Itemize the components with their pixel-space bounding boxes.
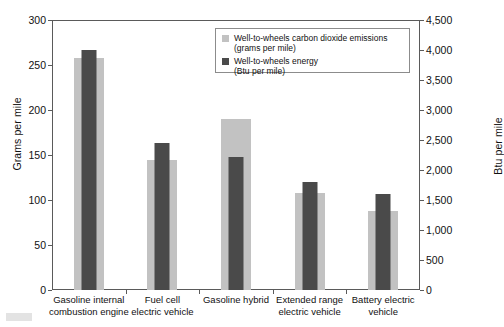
y-tick-mark-right xyxy=(420,230,424,231)
x-axis-labels: Gasoline internalcombustion engineFuel c… xyxy=(52,294,420,326)
y-tick-label-left: 200 xyxy=(2,105,46,116)
legend-label-line2: (Btu per mile) xyxy=(234,66,318,76)
y-tick-mark-left xyxy=(48,245,52,246)
bar-group xyxy=(52,20,126,290)
legend-label-line1: Well-to-wheels carbon dioxide emissions xyxy=(234,33,387,43)
y-tick-mark-left xyxy=(48,155,52,156)
y-tick-mark-left xyxy=(48,110,52,111)
y-tick-mark-left xyxy=(48,65,52,66)
y-tick-label-right: 3,000 xyxy=(426,105,452,116)
y-tick-label-right: 4,500 xyxy=(426,15,452,26)
y-tick-label-right: 2,500 xyxy=(426,135,452,146)
y-axis-right-title: Btu per mile xyxy=(492,91,504,201)
y-tick-mark-right xyxy=(420,140,424,141)
y-tick-label-right: 4,000 xyxy=(426,45,452,56)
y-tick-mark-right xyxy=(420,290,424,291)
y-tick-label-left: 100 xyxy=(2,195,46,206)
chart-legend: Well-to-wheels carbon dioxide emissions(… xyxy=(215,28,410,73)
y-tick-mark-right xyxy=(420,110,424,111)
bar-energy xyxy=(155,143,170,290)
legend-swatch xyxy=(222,35,229,42)
legend-label: Well-to-wheels energy(Btu per mile) xyxy=(234,56,318,76)
y-tick-label-right: 1,000 xyxy=(426,225,452,236)
legend-swatch xyxy=(222,58,229,65)
bar-energy xyxy=(81,50,96,290)
corner-mark xyxy=(6,313,32,321)
y-tick-mark-right xyxy=(420,50,424,51)
x-label-line2: vehicle xyxy=(338,306,428,318)
y-axis-right: 05001,0001,5002,0002,5003,0003,5004,0004… xyxy=(426,0,466,327)
y-axis-left-title: Grams per mile xyxy=(11,79,23,189)
legend-label-line2: (grams per mile) xyxy=(234,43,387,53)
legend-item: Well-to-wheels carbon dioxide emissions(… xyxy=(222,33,404,53)
y-tick-mark-left xyxy=(48,20,52,21)
x-tick-mark xyxy=(346,290,347,294)
bar-energy xyxy=(302,182,317,290)
y-tick-label-left: 0 xyxy=(2,285,46,296)
y-tick-mark-right xyxy=(420,200,424,201)
x-label-line1: Battery electric xyxy=(338,294,428,306)
y-tick-mark-right xyxy=(420,260,424,261)
y-tick-mark-right xyxy=(420,80,424,81)
y-axis-left: 050100150200250300 xyxy=(0,0,46,327)
bar-energy xyxy=(376,194,391,290)
y-tick-label-right: 1,500 xyxy=(426,195,452,206)
y-tick-label-left: 250 xyxy=(2,60,46,71)
bar-energy xyxy=(228,157,243,290)
x-label-line2: electric vehicle xyxy=(118,306,208,318)
x-tick-mark xyxy=(273,290,274,294)
y-tick-mark-left xyxy=(48,200,52,201)
legend-label: Well-to-wheels carbon dioxide emissions(… xyxy=(234,33,387,53)
legend-item: Well-to-wheels energy(Btu per mile) xyxy=(222,56,404,76)
y-tick-label-right: 2,000 xyxy=(426,165,452,176)
x-tick-mark xyxy=(199,290,200,294)
y-tick-label-right: 3,500 xyxy=(426,75,452,86)
y-tick-mark-left xyxy=(48,290,52,291)
y-tick-label-left: 150 xyxy=(2,150,46,161)
y-tick-label-left: 300 xyxy=(2,15,46,26)
legend-label-line1: Well-to-wheels energy xyxy=(234,56,318,66)
y-tick-label-left: 50 xyxy=(2,240,46,251)
y-tick-mark-right xyxy=(420,170,424,171)
y-tick-label-right: 500 xyxy=(426,255,444,266)
x-tick-mark xyxy=(126,290,127,294)
y-tick-mark-right xyxy=(420,20,424,21)
bar-group xyxy=(126,20,200,290)
x-axis-category-label: Battery electricvehicle xyxy=(338,294,428,317)
